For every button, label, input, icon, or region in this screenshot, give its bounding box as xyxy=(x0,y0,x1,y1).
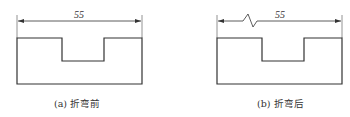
part-profile xyxy=(17,38,142,84)
dimension-label: 55 xyxy=(74,9,84,20)
caption-a: (a) 折弯前 xyxy=(54,96,100,110)
figure-b: 55 xyxy=(217,9,342,84)
part-profile xyxy=(217,38,342,84)
caption-b: (b) 折弯后 xyxy=(257,96,304,110)
diagram: 55 55 (a) 折弯前 (b) 折弯后 xyxy=(0,0,350,117)
dimension-label: 55 xyxy=(275,9,285,20)
figure-a: 55 xyxy=(17,9,142,84)
